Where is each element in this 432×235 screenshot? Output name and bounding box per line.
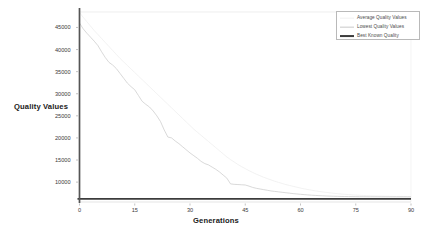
x-tick-label: 75: [346, 207, 366, 213]
y-tick-label: 15000: [41, 157, 71, 163]
y-tick-label: 25000: [41, 113, 71, 119]
y-tick-label: 10000: [41, 179, 71, 185]
y-tick-label: 45000: [41, 24, 71, 30]
line-swatch-icon: [340, 14, 354, 22]
convergence-chart: Quality Values Generations 4500040000350…: [0, 0, 432, 235]
chart-legend: Average Quality Values Lowest Quality Va…: [336, 11, 420, 40]
legend-item-average: Average Quality Values: [337, 14, 421, 22]
y-tick-label: 20000: [41, 135, 71, 141]
y-tick-label: 40000: [41, 47, 71, 53]
y-tick-label: 35000: [41, 69, 71, 75]
x-tick-label: 60: [291, 207, 311, 213]
y-tick-label: 30000: [41, 91, 71, 97]
x-tick-label: 0: [70, 207, 90, 213]
x-tick-label: 90: [401, 207, 421, 213]
y-axis-title: Quality Values: [14, 102, 76, 111]
x-tick-label: 30: [180, 207, 200, 213]
line-swatch-icon: [340, 32, 354, 40]
line-swatch-icon: [340, 23, 354, 31]
x-axis-title: Generations: [0, 216, 432, 225]
legend-label: Lowest Quality Values: [357, 24, 404, 30]
x-tick-label: 45: [235, 207, 255, 213]
legend-label: Best Known Quality: [357, 33, 399, 39]
legend-item-best-known: Best Known Quality: [337, 32, 421, 40]
legend-label: Average Quality Values: [357, 15, 407, 21]
x-tick-label: 15: [125, 207, 145, 213]
legend-item-lowest: Lowest Quality Values: [337, 23, 421, 31]
